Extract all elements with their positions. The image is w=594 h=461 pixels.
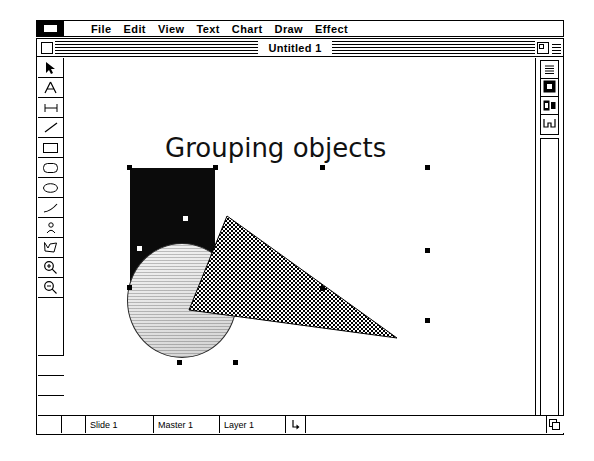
slide-canvas[interactable]: Grouping objects: [65, 58, 537, 418]
lines-stack-icon: [544, 61, 555, 79]
menu-item-list: File Edit View Text Chart Draw Effect: [85, 21, 354, 38]
checkered-cone-object[interactable]: [185, 208, 400, 343]
view-mode-solid-button[interactable]: [541, 79, 558, 97]
menu-bar: File Edit View Text Chart Draw Effect: [54, 20, 564, 37]
zoom-in-tool[interactable]: [38, 258, 63, 278]
ellipse-icon: [42, 182, 59, 194]
arc-curve-icon: [42, 202, 59, 214]
window-body: Grouping objects: [36, 56, 564, 435]
magnifier-plus-icon: [43, 260, 58, 275]
left-corner-box-2[interactable]: [38, 375, 64, 395]
window-title: Untitled 1: [260, 42, 329, 54]
status-corner-a[interactable]: [38, 416, 62, 433]
view-mode-preview-button[interactable]: [541, 97, 558, 115]
pointer-tool[interactable]: [38, 58, 63, 78]
selection-handle[interactable]: [127, 165, 132, 170]
window-grow-box[interactable]: [546, 416, 562, 433]
text-tool[interactable]: [38, 78, 63, 98]
selection-handle[interactable]: [425, 318, 430, 323]
left-corner-box-3[interactable]: [38, 395, 64, 415]
status-corner-b[interactable]: [62, 416, 86, 433]
application-window: File Edit View Text Chart Draw Effect Un…: [36, 20, 564, 435]
diagonal-line-icon: [43, 121, 59, 134]
selection-handle[interactable]: [320, 165, 325, 170]
view-mode-palette: [540, 60, 559, 135]
bracket-icon: [543, 115, 556, 133]
loop-arrow-icon[interactable]: [286, 416, 306, 433]
view-mode-wireframe-button[interactable]: [541, 61, 558, 79]
selection-handle[interactable]: [233, 360, 238, 365]
selection-handle[interactable]: [425, 248, 430, 253]
rounded-rectangle-icon: [42, 162, 59, 174]
menu-text[interactable]: Text: [190, 22, 225, 37]
menu-file[interactable]: File: [85, 22, 118, 37]
freehand-tool[interactable]: [38, 218, 63, 238]
window-title-bar[interactable]: Untitled 1: [36, 38, 564, 57]
status-layer[interactable]: Layer 1: [220, 416, 286, 433]
vertical-scrollbar[interactable]: [540, 138, 559, 416]
line-tool[interactable]: [38, 118, 63, 138]
left-corner-box-1[interactable]: [38, 355, 64, 375]
arrow-pointer-icon: [45, 61, 56, 75]
close-box[interactable]: [41, 42, 53, 54]
ellipse-tool[interactable]: [38, 178, 63, 198]
letter-a-icon: [44, 81, 57, 94]
left-corner-boxes: [38, 355, 64, 415]
title-bar-edge: [552, 42, 561, 54]
right-side-panel: [535, 58, 562, 418]
slide-title-text[interactable]: Grouping objects: [165, 133, 465, 163]
status-empty-area: [306, 416, 564, 433]
layer-link-button[interactable]: [541, 115, 558, 133]
polygon-icon: [43, 241, 58, 254]
menu-view[interactable]: View: [152, 22, 190, 37]
menu-draw[interactable]: Draw: [269, 22, 310, 37]
status-slide[interactable]: Slide 1: [86, 416, 154, 433]
arc-tool[interactable]: [38, 198, 63, 218]
selection-handle[interactable]: [213, 165, 218, 170]
selection-handle[interactable]: [183, 216, 188, 221]
apple-menu-bar-glyph: [44, 25, 57, 32]
rounded-rectangle-tool[interactable]: [38, 158, 63, 178]
zoom-out-tool[interactable]: [38, 278, 63, 298]
zoom-box[interactable]: [537, 42, 549, 54]
menu-effect[interactable]: Effect: [309, 22, 354, 37]
line-segment-icon: [43, 102, 59, 114]
menu-chart[interactable]: Chart: [226, 22, 269, 37]
rectangle-tool[interactable]: [38, 138, 63, 158]
polygon-tool[interactable]: [38, 238, 63, 258]
selection-handle[interactable]: [177, 360, 182, 365]
desktop-background: File Edit View Text Chart Draw Effect Un…: [0, 0, 594, 461]
selection-handle[interactable]: [320, 286, 325, 291]
menu-edit[interactable]: Edit: [118, 22, 152, 37]
selection-handle[interactable]: [137, 246, 142, 251]
selection-handle[interactable]: [127, 285, 132, 290]
selection-handle[interactable]: [425, 165, 430, 170]
magnifier-minus-icon: [43, 280, 58, 295]
title-bar-stripes-right: [332, 41, 535, 54]
title-bar-stripes-left: [55, 41, 258, 54]
apple-menu-icon[interactable]: [36, 20, 64, 37]
status-master[interactable]: Master 1: [154, 416, 220, 433]
freehand-person-icon: [44, 221, 58, 235]
filled-square-icon: [543, 79, 556, 97]
rectangle-icon: [42, 142, 59, 154]
status-bar: Slide 1 Master 1 Layer 1: [38, 415, 564, 433]
square-pair-icon: [543, 97, 556, 115]
dimension-tool[interactable]: [38, 98, 63, 118]
